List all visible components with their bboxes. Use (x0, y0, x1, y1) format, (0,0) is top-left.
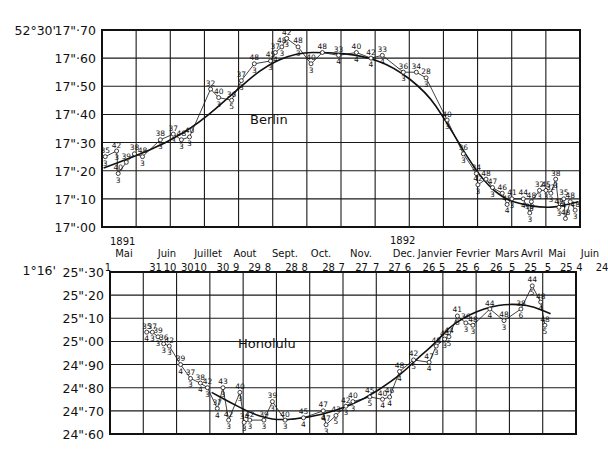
observation-label-top: 39 (122, 152, 132, 161)
observation-label-bottom: 3 (284, 40, 289, 49)
month-label: Janvier (417, 248, 453, 259)
observation-label-top: 39 (259, 410, 269, 419)
observation-label-top: 42 (224, 410, 234, 419)
observation-label-bottom: 4 (397, 374, 402, 383)
observation-label-bottom: 5 (367, 399, 372, 408)
date-axis: 1891 1892 MaiJuinJuilletAoutSept.Oct.Nov… (105, 235, 608, 273)
observation-label-bottom: 3 (242, 424, 247, 433)
observation-label-bottom: 3 (527, 215, 532, 224)
honolulu-observations: 3543733933634233943733844233744334234033… (142, 275, 550, 435)
observation-label-top: 47 (488, 177, 498, 186)
observation-label-top: 47 (424, 352, 434, 361)
observation-label-bottom: 3 (471, 327, 476, 336)
observation-label-top: 40 (214, 87, 224, 96)
observation-point (132, 152, 136, 156)
y-tick-label: 24"·70 (62, 404, 104, 419)
honolulu-panel: 1°16' 25"·3025"·2025"·1025"·0024"·9024"·… (22, 263, 576, 442)
observation-label-bottom: 3 (103, 159, 108, 168)
y-tick-label: 17"·30 (54, 136, 96, 151)
observation-label-bottom: 3 (296, 49, 301, 58)
observation-label-top: 34 (412, 62, 422, 71)
y-tick-label: 17"·60 (54, 51, 96, 66)
observation-label-bottom: 3 (247, 422, 252, 431)
observation-label-bottom: 3 (238, 394, 243, 403)
observation-point (414, 70, 418, 74)
observation-label-top: 48 (527, 191, 537, 200)
observation-label-top: 40 (442, 110, 452, 119)
observation-label-top: 42 (203, 377, 213, 386)
observation-label-top: 48 (293, 36, 303, 45)
observation-label-bottom: 3 (463, 325, 468, 334)
observation-label-bottom: 5 (447, 339, 452, 348)
observation-label-top: 40 (185, 126, 195, 135)
y-tick-label: 24"·80 (62, 381, 104, 396)
observation-label-bottom: 5 (543, 327, 548, 336)
observation-label-top: 48 (395, 361, 405, 370)
observation-label-bottom: 3 (252, 66, 257, 75)
observation-point (209, 87, 213, 91)
observation-label-bottom: 4 (354, 55, 359, 64)
month-label: Mai (115, 248, 133, 259)
observation-label-top: 44 (485, 299, 495, 308)
observation-label-bottom: 4 (380, 57, 385, 66)
berlin-y-axis: 17"·7017"·6017"·5017"·4017"·3017"·2017"·… (54, 23, 96, 235)
honolulu-station-label: Honolulu (238, 336, 296, 351)
observation-label-top: 40 (280, 410, 290, 419)
honolulu-lat-prefix: 1°16' (22, 263, 56, 278)
observation-label-bottom: 3 (573, 212, 578, 221)
observation-label-bottom: 5 (530, 288, 535, 297)
observation-label-top: 38 (516, 299, 526, 308)
observation-label-top: 48 (318, 42, 328, 51)
observation-label-top: 42 (282, 28, 292, 37)
observation-label-top: 42 (245, 410, 255, 419)
observation-label-top: 42 (165, 336, 175, 345)
observation-label-bottom: 3 (445, 122, 450, 131)
observation-label-top: 48 (499, 310, 509, 319)
observation-label-bottom: 3 (187, 139, 192, 148)
month-labels: MaiJuinJuilletAoutSept.Oct.Nov.Dec.Janvi… (115, 248, 599, 259)
observation-label-top: 48 (540, 315, 550, 324)
observation-label-bottom: 3 (309, 66, 314, 75)
month-label: Avril (521, 248, 543, 259)
observation-label-bottom: 3 (502, 323, 507, 332)
berlin-station-label: Berlin (250, 112, 288, 127)
observation-label-bottom: 3 (268, 63, 273, 72)
month-label: Mai (548, 248, 566, 259)
observation-label-bottom: 3 (221, 390, 226, 399)
berlin-lat-prefix: 52°30' (15, 23, 57, 38)
observation-label-top: 48 (561, 208, 571, 217)
observation-label-bottom: 3 (216, 100, 221, 109)
observation-label-top: 46 (497, 183, 507, 192)
observation-label-top: 38 (156, 129, 166, 138)
observation-label-bottom: 4 (144, 334, 149, 343)
y-tick-label: 25"·00 (62, 334, 104, 349)
observation-label-bottom: 3 (424, 80, 429, 89)
observation-label-top: 48 (536, 292, 546, 301)
observation-label-bottom: 6 (455, 318, 460, 327)
observation-label-top: 37 (237, 70, 247, 79)
month-label: Aout (233, 248, 256, 259)
observation-label-bottom: 5 (334, 417, 339, 426)
observation-label-bottom: 3 (114, 153, 119, 162)
observation-label-top: 47 (321, 414, 331, 423)
latitude-variation-chart: 52°30' 17"·7017"·6017"·5017"·4017"·3017"… (0, 0, 608, 459)
observation-label-top: 36 (227, 90, 237, 99)
observation-label-top: 36 (399, 62, 409, 71)
observation-label-bottom: 4 (387, 399, 392, 408)
observation-label-top: 48 (570, 200, 580, 209)
observation-label-top: 43 (218, 377, 228, 386)
observation-label-bottom: 4 (178, 367, 183, 376)
observation-label-top: 43 (331, 405, 341, 414)
observation-point (320, 51, 324, 55)
observation-label-bottom: 3 (188, 380, 193, 389)
observation-label-bottom: 3 (279, 49, 284, 58)
month-label: Fevrier (456, 248, 491, 259)
observation-label-top: 46 (385, 386, 395, 395)
observation-label-bottom: 4 (427, 364, 432, 373)
observation-label-top: 45 (365, 386, 375, 395)
y-tick-label: 17"·40 (54, 107, 96, 122)
observation-label-top: 39 (268, 391, 278, 400)
observation-label-bottom: 3 (270, 404, 275, 413)
observation-label-top: 34 (472, 163, 482, 172)
observation-label-bottom: 3 (150, 334, 155, 343)
